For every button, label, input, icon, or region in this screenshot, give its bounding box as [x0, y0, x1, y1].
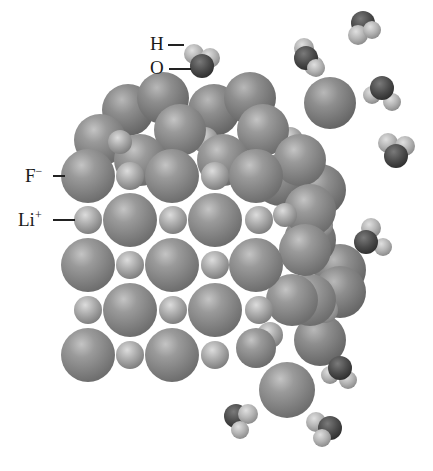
lithium-leader-line — [53, 219, 75, 221]
lithium-label: Li+ — [18, 209, 42, 229]
water-molecule — [378, 133, 415, 168]
water-molecule — [363, 76, 401, 111]
water-molecule — [348, 11, 381, 45]
oxygen-label: O — [150, 58, 164, 77]
hydrogen-leader-line — [168, 44, 184, 46]
dissolved-fluoride-ion — [259, 362, 315, 418]
oxygen-leader-line — [169, 68, 191, 70]
hydrogen-label: H — [150, 34, 164, 53]
fluoride-label: F− — [25, 165, 42, 185]
water-molecule — [294, 38, 325, 77]
lif-lattice-diagram — [0, 0, 433, 471]
water-molecule — [306, 412, 342, 447]
lithium-ion — [74, 206, 102, 234]
fluoride-ion — [61, 149, 115, 203]
fluoride-leader-line — [53, 175, 65, 177]
lattice-front-face — [61, 149, 283, 382]
water-molecule-labeled — [184, 44, 220, 78]
water-molecule — [354, 218, 392, 256]
water-molecule — [224, 404, 258, 439]
